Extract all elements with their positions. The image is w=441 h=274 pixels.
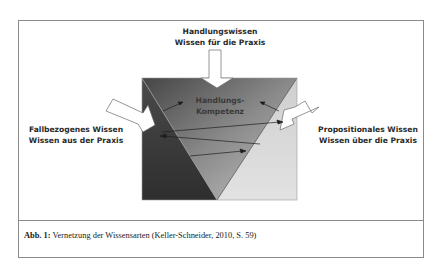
action-knowledge-title: Handlungswissen (170, 27, 270, 38)
figure-number: Abb. 1: (24, 231, 51, 240)
case-knowledge-label: Fallbezogenes Wissen Wissen aus der Prax… (26, 125, 126, 146)
case-knowledge-title: Fallbezogenes Wissen (26, 125, 126, 136)
propositional-knowledge-title: Propositionales Wissen (318, 125, 418, 136)
action-competence-line2: Kompetenz (180, 107, 260, 118)
figure-caption: Abb. 1: Vernetzung der Wissensarten (Kel… (24, 231, 256, 240)
propositional-knowledge-label: Propositionales Wissen Wissen über die P… (318, 125, 418, 146)
action-knowledge-subtitle: Wissen für die Praxis (170, 38, 270, 49)
propositional-knowledge-subtitle: Wissen über die Praxis (318, 136, 418, 147)
action-competence-line1: Handlungs- (180, 96, 260, 107)
action-competence-label: Handlungs- Kompetenz (180, 96, 260, 117)
case-knowledge-subtitle: Wissen aus der Praxis (26, 136, 126, 147)
figure-caption-text: Vernetzung der Wissensarten (Keller-Schn… (51, 231, 257, 240)
action-knowledge-label: Handlungswissen Wissen für die Praxis (170, 27, 270, 48)
